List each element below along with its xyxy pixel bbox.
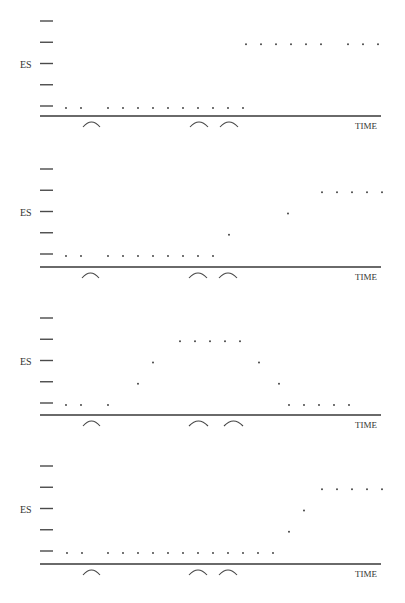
data-point: [366, 191, 368, 193]
data-point: [179, 340, 181, 342]
data-point: [275, 43, 277, 45]
event-arc-icon: [219, 273, 237, 278]
event-arc-icon: [189, 273, 207, 278]
data-point: [197, 107, 199, 109]
data-point: [257, 552, 259, 554]
event-arc-icon: [190, 122, 208, 127]
data-point: [381, 488, 383, 490]
data-point: [351, 191, 353, 193]
data-point: [212, 107, 214, 109]
y-axis-label: ES: [20, 207, 32, 218]
data-point: [65, 255, 67, 257]
data-point: [377, 43, 379, 45]
data-point: [66, 552, 68, 554]
event-arc-icon: [219, 570, 237, 575]
data-point: [122, 552, 124, 554]
data-point: [137, 552, 139, 554]
data-point: [182, 107, 184, 109]
x-axis-label: TIME: [355, 272, 377, 282]
data-point: [336, 191, 338, 193]
data-point: [152, 552, 154, 554]
data-point: [152, 362, 154, 364]
data-point: [318, 404, 320, 406]
data-point: [278, 383, 280, 385]
data-point: [242, 552, 244, 554]
data-point: [287, 213, 289, 215]
data-point: [197, 255, 199, 257]
data-point: [107, 404, 109, 406]
es-time-figure: ESTIME ESTIME ESTIME ESTIME: [0, 0, 405, 603]
event-arc-icon: [220, 122, 238, 127]
data-point: [245, 43, 247, 45]
data-point: [305, 43, 307, 45]
y-axis-label: ES: [20, 356, 32, 367]
data-point: [228, 234, 230, 236]
data-point: [288, 531, 290, 533]
data-point: [137, 107, 139, 109]
data-point: [137, 383, 139, 385]
x-axis-label: TIME: [355, 420, 377, 430]
data-point: [272, 552, 274, 554]
data-point: [351, 488, 353, 490]
event-arc-icon: [189, 570, 207, 575]
data-point: [239, 340, 241, 342]
chart-svg: ESTIME ESTIME ESTIME ESTIME: [0, 0, 405, 603]
data-point: [242, 107, 244, 109]
data-point: [80, 107, 82, 109]
data-point: [347, 43, 349, 45]
data-point: [212, 255, 214, 257]
event-arc-icon: [83, 122, 100, 127]
panel-1: ESTIME: [20, 21, 381, 131]
data-point: [107, 107, 109, 109]
data-point: [197, 552, 199, 554]
data-point: [122, 255, 124, 257]
data-point: [258, 362, 260, 364]
panel-2: ESTIME: [20, 169, 383, 282]
data-point: [320, 43, 322, 45]
event-arc-icon: [224, 421, 243, 426]
data-point: [321, 488, 323, 490]
data-point: [366, 488, 368, 490]
data-point: [65, 107, 67, 109]
y-axis-label: ES: [20, 504, 32, 515]
data-point: [167, 552, 169, 554]
data-point: [303, 510, 305, 512]
data-point: [321, 191, 323, 193]
panel-4: ESTIME: [20, 466, 383, 579]
data-point: [152, 107, 154, 109]
data-point: [107, 255, 109, 257]
data-point: [333, 404, 335, 406]
data-point: [80, 255, 82, 257]
data-point: [122, 107, 124, 109]
data-point: [348, 404, 350, 406]
event-arc-icon: [189, 421, 208, 426]
data-point: [336, 488, 338, 490]
data-point: [81, 552, 83, 554]
event-arc-icon: [83, 421, 100, 426]
data-point: [152, 255, 154, 257]
data-point: [303, 404, 305, 406]
data-point: [65, 404, 67, 406]
data-point: [167, 255, 169, 257]
data-point: [290, 43, 292, 45]
data-point: [227, 552, 229, 554]
event-arc-icon: [82, 273, 99, 278]
data-point: [288, 404, 290, 406]
y-axis-label: ES: [20, 59, 32, 70]
data-point: [260, 43, 262, 45]
data-point: [107, 552, 109, 554]
data-point: [227, 107, 229, 109]
data-point: [182, 552, 184, 554]
data-point: [194, 340, 196, 342]
data-point: [381, 191, 383, 193]
data-point: [224, 340, 226, 342]
event-arc-icon: [83, 570, 100, 575]
x-axis-label: TIME: [355, 569, 377, 579]
x-axis-label: TIME: [355, 121, 377, 131]
panel-3: ESTIME: [20, 318, 381, 430]
data-point: [182, 255, 184, 257]
data-point: [137, 255, 139, 257]
data-point: [362, 43, 364, 45]
data-point: [212, 552, 214, 554]
data-point: [209, 340, 211, 342]
